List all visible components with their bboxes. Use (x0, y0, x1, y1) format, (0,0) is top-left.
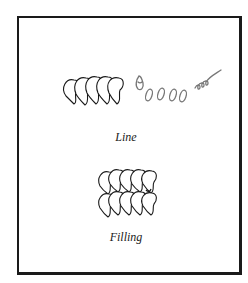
filling-caption: Filling (76, 230, 176, 245)
line-stitch-scallop-row-illustration (60, 74, 126, 110)
line-stitch-oval-steps-illustration (133, 62, 225, 110)
line-caption: Line (76, 130, 176, 145)
filling-stitch-illustration (96, 168, 160, 222)
